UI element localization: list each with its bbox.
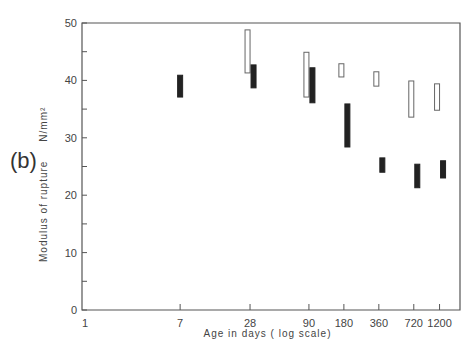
hollow-range-bar [339,64,344,77]
x-tick-label: 180 [335,317,353,329]
solid-range-bar [178,75,183,97]
y-tick-label: 30 [65,132,77,144]
hollow-range-bar [245,30,250,73]
solid-range-bar [310,68,315,103]
y-tick-label: 40 [65,74,77,86]
hollow-range-bar [435,84,440,110]
solid-range-bar [441,161,446,178]
x-tick-label: 90 [303,317,315,329]
solid-range-bar [380,158,385,172]
hollow-range-bar [409,81,414,117]
x-tick-label: 1200 [427,317,451,329]
hollow-range-bar [304,52,309,97]
x-tick-label: 720 [405,317,423,329]
hollow-range-bar [374,72,379,86]
x-tick-label: 7 [177,317,183,329]
solid-range-bar [345,104,350,147]
solid-range-bar [415,164,420,188]
x-tick-label: 360 [370,317,388,329]
range-chart: 010203040501728901803607201200 [0,0,475,353]
x-tick-label: 28 [244,317,256,329]
plot-frame [82,23,460,310]
x-tick-label: 1 [82,317,88,329]
y-tick-label: 20 [65,189,77,201]
y-tick-label: 0 [71,304,77,316]
y-tick-label: 50 [65,17,77,29]
y-tick-label: 10 [65,247,77,259]
solid-range-bar [251,65,256,88]
